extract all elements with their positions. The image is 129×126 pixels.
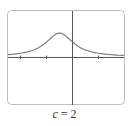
graph	[0, 0, 129, 106]
curve	[8, 33, 124, 55]
caption-variable: c	[52, 107, 57, 121]
caption-equals: =	[61, 107, 68, 121]
caption: c = 2	[0, 107, 129, 122]
caption-value: 2	[71, 107, 77, 121]
